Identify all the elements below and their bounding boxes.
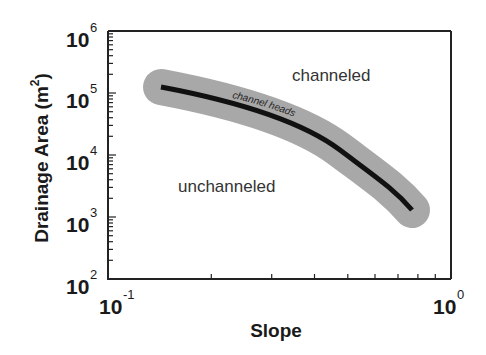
y-tick-1e2: 10 — [66, 275, 89, 298]
chart-canvas: channel heads — [0, 0, 486, 355]
y-tick-labels: 10 6 10 5 10 4 10 3 10 2 — [66, 20, 97, 298]
y-tick-1e6: 10 — [66, 28, 89, 51]
svg-text:3: 3 — [90, 205, 97, 220]
y-tick-1e4: 10 — [66, 151, 89, 174]
x-tick-1e-1: 10 — [99, 295, 122, 318]
y-tick-1e3: 10 — [66, 213, 89, 236]
channeled-label: channeled — [292, 66, 370, 85]
svg-text:2: 2 — [90, 267, 97, 282]
svg-text:4: 4 — [90, 143, 97, 158]
svg-text:Drainage Area (m2): Drainage Area (m2) — [28, 73, 52, 243]
unchanneled-label: unchanneled — [178, 177, 275, 196]
svg-text:0: 0 — [457, 287, 464, 302]
y-axis-title: Drainage Area (m2) — [28, 73, 52, 243]
y-tick-1e5: 10 — [66, 89, 89, 112]
x-tick-labels: 10 -1 10 0 — [99, 287, 464, 318]
plot-frame — [107, 31, 451, 280]
y-axis-ticks — [108, 34, 116, 260]
x-tick-1e0: 10 — [433, 295, 456, 318]
svg-text:-1: -1 — [123, 287, 135, 302]
svg-text:6: 6 — [90, 20, 97, 35]
svg-text:5: 5 — [90, 81, 97, 96]
x-axis-title: Slope — [250, 320, 302, 341]
